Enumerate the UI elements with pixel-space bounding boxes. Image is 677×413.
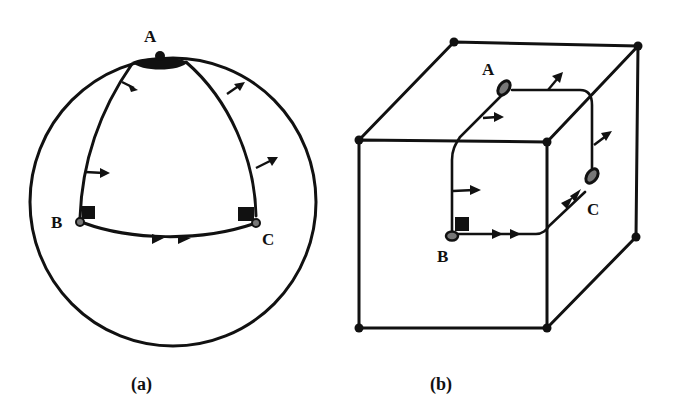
label-a: A: [482, 60, 495, 79]
right-angle-marker-b: [82, 206, 95, 219]
vector-arrow-icon: [594, 131, 612, 145]
meridian-a-c: [186, 62, 256, 216]
label-b: B: [437, 247, 448, 266]
point-b-dot: [446, 232, 458, 241]
vector-arrow-icon: [227, 82, 245, 94]
direction-arrow-icon: [492, 229, 503, 239]
label-b: B: [51, 213, 62, 232]
vector-arrow-icon: [453, 185, 481, 195]
equator-b-c: [84, 223, 253, 237]
right-angle-marker-b: [455, 217, 469, 231]
direction-arrow-icon: [570, 189, 581, 202]
label-c: C: [587, 200, 599, 219]
cube-right-face: [547, 46, 638, 328]
label-c: C: [262, 230, 274, 249]
point-c-dot: [252, 219, 260, 227]
panel-a-sphere: A B C (a): [30, 27, 316, 395]
sphere-outline: [30, 58, 316, 346]
vector-arrow-icon: [85, 168, 110, 178]
vector-arrow-icon: [122, 82, 138, 92]
vector-arrow-icon: [256, 157, 278, 168]
label-a: A: [144, 27, 157, 46]
point-b-dot: [76, 218, 84, 226]
cube-vertices: [355, 38, 643, 333]
point-c-dot: [583, 167, 600, 186]
right-angle-marker-c: [238, 207, 254, 221]
direction-arrow-icon: [510, 229, 521, 239]
vector-arrow-icon: [548, 72, 563, 90]
caption-b: (b): [430, 374, 452, 395]
parallel-transport-figure: A B C (a): [0, 0, 677, 413]
point-a-dot: [155, 51, 165, 61]
direction-arrow-icon: [561, 197, 573, 209]
path-b-c: [452, 192, 585, 234]
caption-a: (a): [131, 374, 152, 395]
point-a-dot: [495, 79, 512, 98]
panel-b-cube: A B C (b): [355, 38, 643, 396]
vector-arrow-icon: [483, 112, 504, 122]
